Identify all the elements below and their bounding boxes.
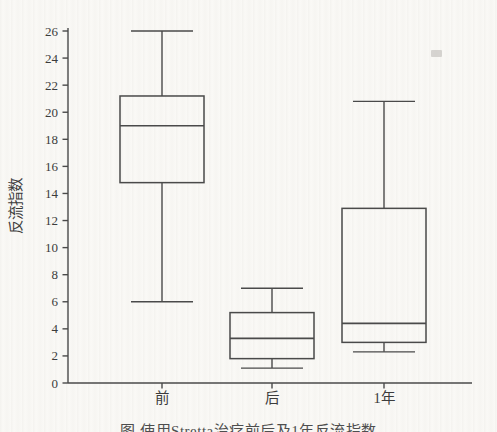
x-category-label: 前 <box>155 390 169 406</box>
y-tick-label: 20 <box>45 105 58 120</box>
y-tick-label: 16 <box>45 159 59 174</box>
box-前 <box>120 96 204 183</box>
box-1年 <box>342 208 426 342</box>
y-tick-label: 0 <box>52 376 59 391</box>
figure-page: 02468101214161820222426反流指数前后1年 图 使用Stre… <box>0 0 497 432</box>
y-tick-label: 6 <box>52 294 59 309</box>
y-tick-label: 14 <box>45 186 59 201</box>
y-tick-label: 26 <box>45 24 59 39</box>
y-tick-label: 8 <box>52 267 59 282</box>
y-tick-label: 12 <box>45 213 58 228</box>
boxplot-chart: 02468101214161820222426反流指数前后1年 <box>0 0 497 432</box>
x-category-label: 后 <box>265 390 279 406</box>
y-tick-label: 18 <box>45 132 58 147</box>
y-tick-label: 24 <box>45 51 59 66</box>
figure-caption: 图 使用Stretta治疗前后及1年反流指数 <box>0 419 497 432</box>
scan-smudge-artifact <box>431 50 442 57</box>
y-tick-label: 22 <box>45 78 58 93</box>
y-axis-title: 反流指数 <box>8 177 24 234</box>
x-category-label: 1年 <box>373 390 394 406</box>
box-后 <box>230 313 314 359</box>
y-tick-label: 4 <box>52 321 59 336</box>
y-tick-label: 2 <box>52 348 59 363</box>
y-tick-label: 10 <box>45 240 58 255</box>
